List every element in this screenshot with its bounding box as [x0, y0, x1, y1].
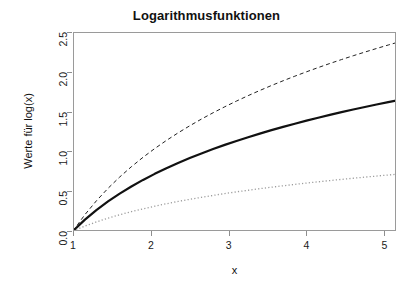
curves-layer [73, 32, 396, 231]
y-tick-label: 2.0 [57, 72, 69, 87]
series-line [73, 174, 396, 231]
y-tick-label: 1.0 [57, 151, 69, 166]
x-tick-label: 2 [148, 239, 154, 251]
y-tick-label: 0.5 [57, 191, 69, 206]
y-axis-label: Werte für log(x) [22, 93, 34, 169]
series-line [73, 43, 396, 231]
series-group [73, 43, 396, 231]
x-tick-mark [229, 231, 230, 236]
series-line [73, 101, 396, 231]
x-tick-mark [384, 231, 385, 236]
x-axis-label: x [73, 264, 396, 276]
x-tick-label: 3 [226, 239, 232, 251]
x-tick-mark [73, 231, 74, 236]
y-tick-label: 0.0 [57, 231, 69, 246]
x-tick-mark [306, 231, 307, 236]
chart-figure: Logarithmusfunktionen 0.00.51.01.52.02.5… [0, 0, 413, 292]
chart-title: Logarithmusfunktionen [0, 8, 413, 23]
plot-area: 0.00.51.01.52.02.5 12345 [73, 32, 396, 231]
y-tick-label: 2.5 [57, 32, 69, 47]
x-tick-label: 1 [70, 239, 76, 251]
x-tick-mark [151, 231, 152, 236]
x-tick-label: 4 [304, 239, 310, 251]
x-tick-label: 5 [381, 239, 387, 251]
y-tick-label: 1.5 [57, 112, 69, 127]
